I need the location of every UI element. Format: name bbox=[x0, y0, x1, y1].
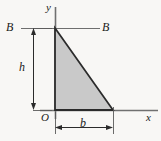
triangle-shape bbox=[55, 28, 113, 110]
y-axis-label: y bbox=[46, 2, 51, 13]
origin-label: O bbox=[41, 112, 49, 123]
x-axis-label: x bbox=[146, 112, 151, 123]
section-label-left: B bbox=[6, 21, 13, 33]
height-dimension-label: h bbox=[19, 61, 25, 73]
base-arrowhead-right bbox=[106, 125, 113, 130]
base-dimension-label: b bbox=[80, 117, 86, 129]
section-label-right: B bbox=[102, 21, 109, 33]
triangle-cross-section-figure: y x O h b B B bbox=[0, 0, 161, 141]
height-arrowhead-bottom bbox=[31, 103, 36, 110]
base-arrowhead-left bbox=[55, 125, 62, 130]
